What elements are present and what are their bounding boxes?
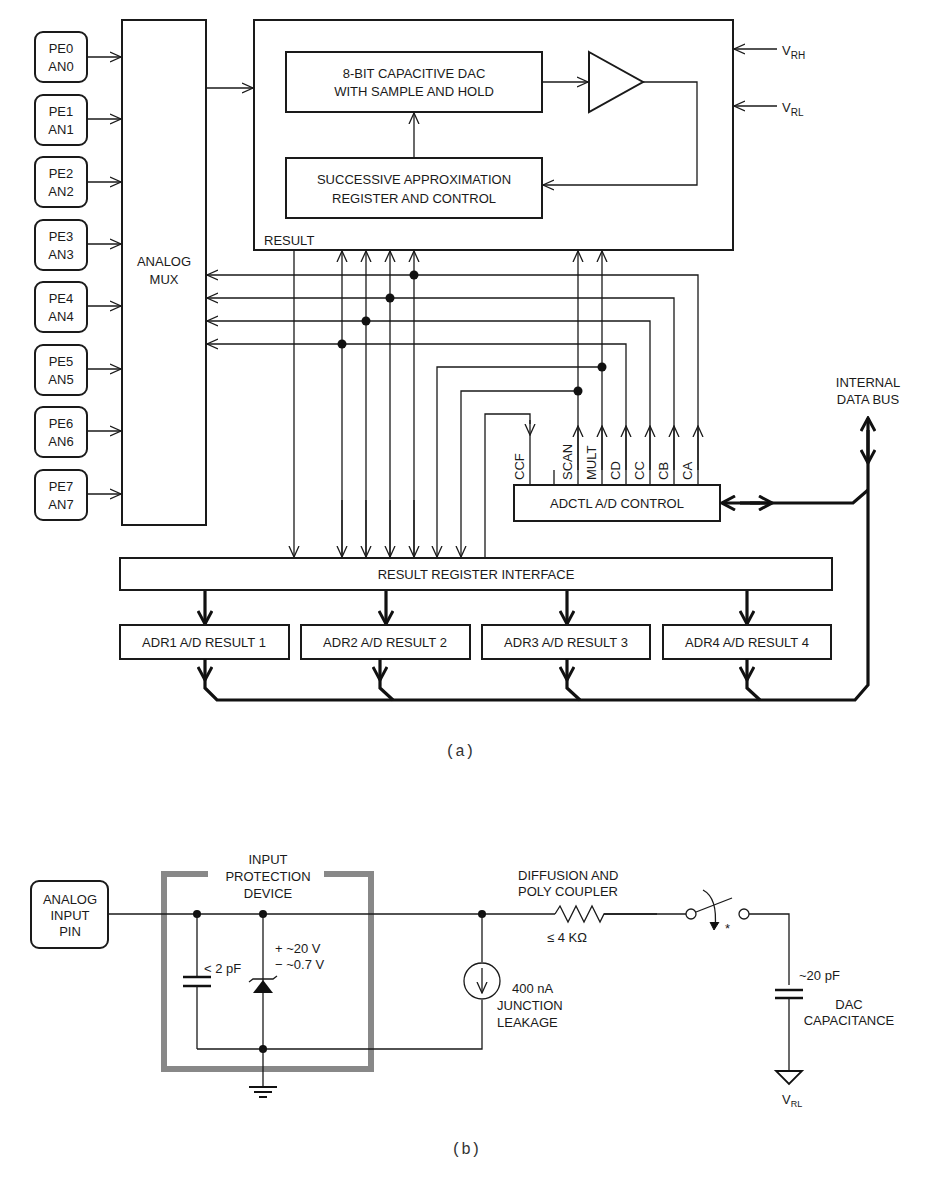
input-pin-label-3: PIN	[59, 924, 81, 939]
pin-pe7: PE7 AN7	[35, 470, 121, 520]
bit-cd: CD	[608, 461, 623, 480]
result-register-interface: RESULT REGISTER INTERFACE	[120, 558, 832, 590]
protection-label-1: INPUT	[249, 852, 288, 867]
pin-port-label: PE6	[49, 416, 74, 431]
pin-port-label: PE0	[49, 41, 74, 56]
dac-label-1: 8-BIT CAPACITIVE DAC	[343, 66, 486, 81]
dac-cap-label-1: DAC	[835, 997, 862, 1012]
pin-analog-label: AN1	[48, 122, 73, 137]
pin-analog-label: AN4	[48, 309, 73, 324]
bus-label-2: DATA BUS	[837, 392, 900, 407]
adr1-label: ADR1 A/D RESULT 1	[142, 635, 266, 650]
protection-label-2: PROTECTION	[225, 869, 310, 884]
bit-ccf: CCF	[512, 453, 527, 480]
dac-cap-label-2: CAPACITANCE	[804, 1013, 895, 1028]
adctl-register: ADCTL A/D CONTROL	[514, 485, 720, 521]
input-pin-label-2: INPUT	[51, 908, 90, 923]
sar-label-1: SUCCESSIVE APPROXIMATION	[317, 172, 511, 187]
pin-pe3: PE3 AN3	[35, 220, 121, 270]
pin-analog-label: AN7	[48, 497, 73, 512]
pin-port-label: PE4	[49, 291, 74, 306]
leak-label-3: LEAKAGE	[497, 1015, 558, 1030]
figure-a-label: (a)	[446, 743, 475, 761]
figure-b-label: (b)	[452, 1141, 481, 1159]
pin-pe5: PE5 AN5	[35, 345, 121, 395]
adc-block-diagram: PE0 AN0 PE1 AN1 PE2 AN2 PE3 AN3 PE4 AN4	[0, 0, 937, 1188]
bit-cc: CC	[632, 461, 647, 480]
adctl-label: ADCTL A/D CONTROL	[550, 496, 684, 511]
adr3-label: ADR3 A/D RESULT 3	[504, 635, 628, 650]
dac-box	[286, 52, 542, 112]
vrl-ref-icon	[776, 1071, 802, 1084]
pin-pe0: PE0 AN0	[35, 32, 121, 82]
pin-port-label: PE7	[49, 479, 74, 494]
mux-label-2: MUX	[150, 272, 179, 287]
input-pin-label-1: ANALOG	[43, 892, 97, 907]
protection-label-3: DEVICE	[244, 886, 293, 901]
vrl-b-label: VRL	[782, 1092, 802, 1109]
sar-box	[286, 158, 542, 218]
bit-cb: CB	[656, 462, 671, 480]
cap-in-label: < 2 pF	[204, 961, 241, 976]
coupler-label-1: DIFFUSION AND	[518, 868, 618, 883]
pin-analog-label: AN3	[48, 247, 73, 262]
switch-mark: *	[725, 921, 730, 936]
converter-block: 8-BIT CAPACITIVE DAC WITH SAMPLE AND HOL…	[254, 20, 733, 250]
mux-label-1: ANALOG	[137, 254, 191, 269]
zener-neg-label: − ~0.7 V	[275, 957, 324, 972]
pin-analog-label: AN0	[48, 59, 73, 74]
result-label: RESULT	[264, 233, 314, 248]
bit-scan: SCAN	[560, 444, 575, 480]
pin-pe1: PE1 AN1	[35, 95, 121, 145]
protection-device-box	[164, 874, 371, 1069]
dac-cap-value: ~20 pF	[799, 968, 840, 983]
adr2-label: ADR2 A/D RESULT 2	[323, 635, 447, 650]
vrl-label: VRL	[782, 100, 804, 118]
adr4-label: ADR4 A/D RESULT 4	[685, 635, 809, 650]
pin-port-label: PE5	[49, 354, 74, 369]
leak-label-2: JUNCTION	[497, 998, 563, 1013]
rri-label: RESULT REGISTER INTERFACE	[378, 567, 575, 582]
bit-mult: MULT	[584, 446, 599, 480]
dac-label-2: WITH SAMPLE AND HOLD	[334, 84, 494, 99]
pin-pe4: PE4 AN4	[35, 282, 121, 332]
bit-ca: CA	[680, 462, 695, 480]
bus-label-1: INTERNAL	[836, 375, 900, 390]
pin-group: PE0 AN0 PE1 AN1 PE2 AN2 PE3 AN3 PE4 AN4	[35, 32, 121, 520]
pin-port-label: PE2	[49, 166, 74, 181]
sar-label-2: REGISTER AND CONTROL	[332, 191, 496, 206]
pin-port-label: PE3	[49, 229, 74, 244]
analog-mux: ANALOG MUX	[122, 20, 206, 525]
coupler-value-label: ≤ 4 KΩ	[547, 930, 587, 945]
leak-value-label: 400 nA	[512, 981, 554, 996]
result-registers: ADR1 A/D RESULT 1 ADR2 A/D RESULT 2 ADR3…	[120, 591, 831, 680]
pin-analog-label: AN6	[48, 434, 73, 449]
pin-pe2: PE2 AN2	[35, 157, 121, 207]
coupler-label-2: POLY COUPLER	[518, 884, 618, 899]
pin-pe6: PE6 AN6	[35, 407, 121, 457]
zener-diode-icon	[253, 980, 273, 993]
control-bit-labels: CCF SCAN MULT CD CC CB CA	[512, 444, 695, 480]
pin-analog-label: AN2	[48, 184, 73, 199]
zener-pos-label: + ~20 V	[275, 941, 321, 956]
input-circuit: ANALOG INPUT PIN INPUT PROTECTION DEVICE…	[31, 852, 895, 1109]
pin-port-label: PE1	[49, 104, 74, 119]
vrh-label: VRH	[782, 43, 805, 61]
pin-analog-label: AN5	[48, 372, 73, 387]
